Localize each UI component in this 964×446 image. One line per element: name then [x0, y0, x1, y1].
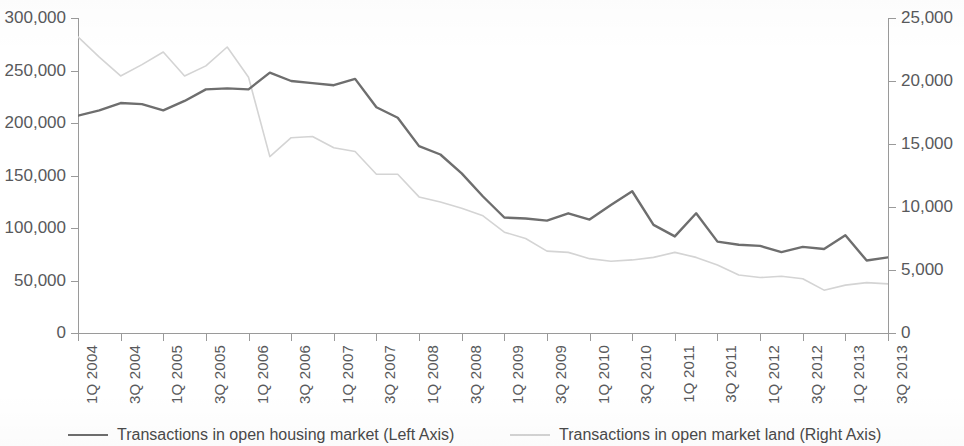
x-axis-tick — [376, 334, 377, 341]
left-axis-tick — [71, 176, 78, 177]
left-axis-tick-label: 0 — [0, 324, 66, 341]
right-axis-tick-label: 25,000 — [901, 9, 964, 26]
right-axis-tick — [889, 333, 896, 334]
x-axis-tick-label: 3Q 2012 — [809, 345, 824, 404]
x-axis-tick — [249, 334, 250, 341]
x-axis-tick — [163, 334, 164, 341]
right-axis-tick-label: 5,000 — [901, 261, 964, 278]
left-axis-tick-label: 150,000 — [0, 167, 66, 184]
x-axis-tick-label: 1Q 2013 — [851, 345, 866, 404]
plot-area — [78, 18, 888, 333]
x-axis-tick-label: 1Q 2011 — [681, 345, 696, 403]
x-axis-tick-label: 1Q 2006 — [255, 345, 270, 404]
left-axis-tick — [71, 228, 78, 229]
left-axis-tick-label: 300,000 — [0, 9, 66, 26]
left-axis-tick-label: 50,000 — [0, 272, 66, 289]
x-axis-tick — [590, 334, 591, 341]
x-axis-tick — [547, 334, 548, 341]
x-axis-tick — [78, 334, 79, 341]
left-axis-tick — [71, 71, 78, 72]
x-axis-tick — [888, 334, 889, 341]
right-axis-tick-label: 0 — [901, 324, 964, 341]
legend-item-housing: Transactions in open housing market (Lef… — [68, 424, 454, 446]
left-axis-tick-label: 250,000 — [0, 62, 66, 79]
x-axis-tick — [504, 334, 505, 341]
left-axis-tick — [71, 281, 78, 282]
x-axis-tick — [121, 334, 122, 341]
x-axis-line — [78, 333, 889, 334]
right-axis-tick — [889, 18, 896, 19]
x-axis-tick-label: 1Q 2008 — [425, 345, 440, 404]
x-axis-tick-label: 1Q 2004 — [84, 345, 99, 404]
x-axis-tick — [419, 334, 420, 341]
x-axis-tick — [291, 334, 292, 341]
x-axis-tick-label: 1Q 2007 — [340, 345, 355, 404]
x-axis-tick — [675, 334, 676, 341]
right-axis-tick — [889, 270, 896, 271]
legend-line-swatch-housing — [68, 434, 108, 436]
x-axis-tick-label: 1Q 2009 — [510, 345, 525, 404]
x-axis-tick-label: 3Q 2010 — [638, 345, 653, 404]
chart-legend: Transactions in open housing market (Lef… — [0, 424, 964, 446]
right-axis-tick-label: 15,000 — [901, 135, 964, 152]
legend-label-land: Transactions in open market land (Right … — [559, 426, 881, 444]
x-axis-tick — [206, 334, 207, 341]
x-axis-tick-label: 1Q 2012 — [766, 345, 781, 404]
left-axis-tick-label: 200,000 — [0, 114, 66, 131]
series-line-housing — [78, 73, 888, 261]
chart-figure: 050,000100,000150,000200,000250,000300,0… — [0, 0, 964, 446]
right-axis-tick — [889, 144, 896, 145]
x-axis-tick-label: 3Q 2009 — [553, 345, 568, 404]
series-line-land — [78, 37, 888, 290]
legend-label-housing: Transactions in open housing market (Lef… — [117, 426, 454, 444]
x-axis-tick-label: 3Q 2008 — [468, 345, 483, 404]
series-lines — [78, 18, 888, 333]
legend-line-swatch-land — [510, 434, 550, 436]
x-axis-tick — [632, 334, 633, 341]
right-axis-tick — [889, 81, 896, 82]
x-axis-tick-label: 3Q 2007 — [382, 345, 397, 404]
x-axis-tick-label: 1Q 2010 — [596, 345, 611, 404]
x-axis-tick-label: 3Q 2011 — [723, 345, 738, 403]
x-axis-tick-label: 3Q 2013 — [894, 345, 909, 404]
x-axis-tick-label: 3Q 2004 — [127, 345, 142, 404]
legend-item-land: Transactions in open market land (Right … — [510, 424, 881, 446]
right-axis-line — [888, 18, 889, 334]
right-axis-tick-label: 20,000 — [901, 72, 964, 89]
right-axis-tick-label: 10,000 — [901, 198, 964, 215]
x-axis-tick — [462, 334, 463, 341]
left-axis-tick — [71, 18, 78, 19]
x-axis-tick — [803, 334, 804, 341]
x-axis-tick — [845, 334, 846, 341]
x-axis-tick — [334, 334, 335, 341]
x-axis-tick-label: 3Q 2006 — [297, 345, 312, 404]
x-axis-tick — [760, 334, 761, 341]
right-axis-tick — [889, 207, 896, 208]
x-axis-tick-label: 3Q 2005 — [212, 345, 227, 404]
left-axis-tick — [71, 123, 78, 124]
left-axis-tick — [71, 333, 78, 334]
x-axis-tick-label: 1Q 2005 — [169, 345, 184, 404]
x-axis-tick — [717, 334, 718, 341]
left-axis-tick-label: 100,000 — [0, 219, 66, 236]
